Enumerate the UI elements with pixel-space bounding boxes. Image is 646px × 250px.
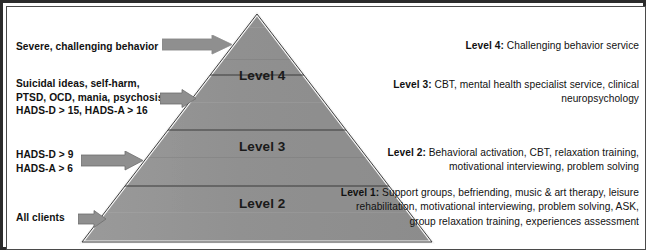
right-annotation-level-4-title: Level 4: <box>466 40 504 51</box>
left-annotation-level-1-line-1: All clients <box>16 211 65 225</box>
left-annotation-level-4: Severe, challenging behavior <box>16 40 158 54</box>
right-annotation-level-2: Level 2: Behavioral activation, CBT, rel… <box>339 146 639 175</box>
left-annotation-level-2-line-1: HADS-D > 9 <box>16 148 73 162</box>
right-annotation-level-2-title: Level 2: <box>388 147 426 158</box>
arrow-icon-level-1 <box>78 210 108 228</box>
figure-canvas: Level 4 Level 3 Level 2 Level 1 Severe, … <box>6 6 646 250</box>
left-annotation-level-3: Suicidal ideas, self-harm, PTSD, OCD, ma… <box>16 77 166 118</box>
left-annotation-level-3-line-3: HADS-D > 15, HADS-A > 16 <box>16 104 166 118</box>
arrow-icon-level-3 <box>160 89 198 108</box>
right-annotation-level-2-body: Behavioral activation, CBT, relaxation t… <box>426 147 639 172</box>
right-annotation-level-1-body: Support groups, befriending, music & art… <box>356 187 639 227</box>
left-annotation-level-1: All clients <box>16 211 65 225</box>
arrow-icon-level-2 <box>81 151 145 171</box>
left-annotation-level-2-line-2: HADS-A > 6 <box>16 162 73 176</box>
figure-frame: Level 4 Level 3 Level 2 Level 1 Severe, … <box>0 0 646 250</box>
pyramid-label-level-2: Level 2 <box>239 196 285 211</box>
arrow-icon-level-4 <box>162 35 234 55</box>
right-annotation-level-3-title: Level 3: <box>393 79 431 90</box>
pyramid-label-level-3: Level 3 <box>239 139 285 154</box>
left-annotation-level-3-line-2: PTSD, OCD, mania, psychosis, <box>16 91 166 105</box>
left-annotation-level-2: HADS-D > 9 HADS-A > 6 <box>16 148 73 175</box>
left-annotation-level-4-line-1: Severe, challenging behavior <box>16 40 158 54</box>
pyramid-label-level-4: Level 4 <box>239 68 285 83</box>
right-annotation-level-1-title: Level 1: <box>341 187 379 198</box>
right-annotation-level-1: Level 1: Support groups, befriending, mu… <box>339 186 639 229</box>
right-annotation-level-3-body: CBT, mental health specialist service, c… <box>432 79 639 104</box>
right-annotation-level-4-body: Challenging behavior service <box>504 40 639 51</box>
left-annotation-level-3-line-1: Suicidal ideas, self-harm, <box>16 77 166 91</box>
right-annotation-level-3: Level 3: CBT, mental health specialist s… <box>339 78 639 107</box>
right-annotation-level-4: Level 4: Challenging behavior service <box>339 39 639 53</box>
